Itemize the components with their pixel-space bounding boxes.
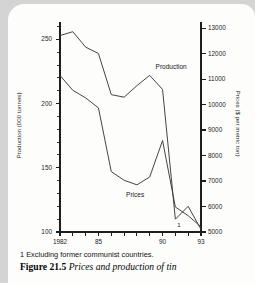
y-axis-right-tick-label: 8000 (208, 152, 238, 159)
figure-card: Production (000 tonnes) Prices ($ per me… (8, 4, 255, 283)
y-axis-left-tick-label: 150 (26, 164, 52, 171)
y-axis-right-tick-label: 6000 (208, 203, 238, 210)
figure-footnote: 1 Excluding former communist countries. (20, 250, 255, 259)
y-axis-right-tick-label: 13000 (208, 24, 238, 31)
x-axis-tick-label: 90 (150, 238, 176, 245)
figure-caption: Figure 21.5 Prices and production of tin (20, 261, 255, 272)
y-axis-right-tick-label: 11000 (208, 75, 238, 82)
y-axis-right-tick-label: 9000 (208, 126, 238, 133)
figure-page: Production (000 tonnes) Prices ($ per me… (0, 0, 255, 283)
series-label-prices: Prices (126, 191, 144, 198)
y-axis-left-tick-label: 100 (26, 228, 52, 235)
series-line-production (60, 32, 201, 230)
y-axis-left-tick-label: 200 (26, 100, 52, 107)
chart-series-lines (60, 32, 201, 230)
y-axis-right-tick-label: 12000 (208, 50, 238, 57)
x-axis-tick-label: 1982 (47, 238, 73, 245)
figure-title: Prices and production of tin (69, 261, 177, 272)
footnote-marker: 1 (177, 222, 180, 228)
chart-axes (56, 22, 206, 236)
chart-plot-region: Production (000 tonnes) Prices ($ per me… (8, 10, 255, 248)
series-label-production: Production (156, 63, 187, 70)
x-axis-tick-label: 93 (188, 238, 214, 245)
figure-number: Figure 21.5 (20, 261, 66, 272)
y-axis-right-tick-label: 5000 (208, 228, 238, 235)
y-axis-right-tick-label: 7000 (208, 177, 238, 184)
figure-caption-block: 1 Excluding former communist countries. … (20, 250, 255, 272)
x-axis-tick-label: 85 (85, 238, 111, 245)
y-axis-left-tick-label: 250 (26, 35, 52, 42)
y-axis-right-tick-label: 10000 (208, 101, 238, 108)
series-line-prices (60, 75, 201, 226)
